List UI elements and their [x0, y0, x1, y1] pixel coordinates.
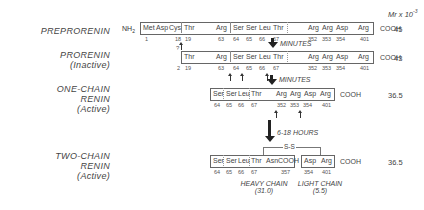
- residue: Leu: [259, 53, 271, 60]
- step-arrowhead-icon: [268, 42, 278, 48]
- position-number: 65: [246, 36, 252, 42]
- residue: Cys: [169, 24, 181, 31]
- position-number: 354: [336, 65, 345, 71]
- residue: Leu: [259, 24, 271, 31]
- position-number: 352: [277, 102, 286, 108]
- position-number: 401: [322, 102, 331, 108]
- residue: Arg: [322, 24, 333, 31]
- label-one-chain-renin: ONE-CHAIN RENIN (Active): [0, 84, 110, 114]
- divider: [181, 22, 182, 33]
- residue: Asp: [156, 24, 168, 31]
- position-number: 354: [303, 102, 312, 108]
- position-number: 1: [145, 36, 148, 42]
- label-one-chain-name: ONE-CHAIN: [0, 84, 110, 94]
- label-prorenin: PRORENIN (Inactive): [0, 50, 110, 70]
- label-two-chain-state: (Active): [0, 171, 110, 181]
- residue: Arg: [322, 53, 333, 60]
- light-chain-name: LIGHT CHAIN: [290, 180, 350, 187]
- residue: Arg: [308, 24, 319, 31]
- residue: Ser: [233, 24, 244, 31]
- label-two-chain-renin: TWO-CHAIN RENIN (Active): [0, 151, 110, 181]
- position-number: 353: [322, 65, 331, 71]
- nh2-text: NH: [122, 25, 132, 32]
- light-chain-mr: (5.5): [290, 187, 350, 194]
- residue: Arg: [358, 53, 369, 60]
- residue: Leu: [238, 90, 250, 97]
- residue: Ser: [233, 53, 244, 60]
- label-two-chain-name2: RENIN: [0, 161, 110, 171]
- divider: [230, 22, 231, 33]
- residue: Thr: [273, 24, 284, 31]
- nh2-sub: 2: [132, 28, 135, 34]
- step-arrowhead-icon: [265, 136, 275, 142]
- residue: Ser: [213, 157, 224, 164]
- cleavage-arrowhead-icon: [298, 110, 302, 113]
- residue: Thr: [273, 53, 284, 60]
- residue: Arg: [321, 157, 332, 164]
- residue: Arg: [216, 24, 227, 31]
- heavy-chain-mr: (31.0): [234, 187, 294, 194]
- position-number: 67: [251, 169, 257, 175]
- nh2-terminus: NH2: [122, 25, 135, 34]
- position-number: 66: [238, 169, 244, 175]
- cooh-terminus: COOH: [340, 91, 361, 98]
- position-number: 19: [185, 36, 191, 42]
- label-prorenin-state: (Inactive): [0, 60, 110, 70]
- step-arrow-icon: [268, 120, 271, 136]
- mr-value: 36.5: [388, 91, 403, 100]
- residue: Arg: [320, 90, 331, 97]
- position-number: 357: [281, 169, 290, 175]
- heavy-chain-label: HEAVY CHAIN (31.0): [234, 180, 294, 194]
- cooh-terminus: COOH: [340, 158, 361, 165]
- step-label: MINUTES: [280, 40, 312, 47]
- position-number: 353: [322, 36, 331, 42]
- position-number: 401: [360, 36, 369, 42]
- cleavage-arrowhead-icon: [228, 73, 232, 76]
- residue: Thr: [184, 24, 195, 31]
- step-arrowhead-icon: [267, 79, 277, 85]
- mr-header: Mr x 10-3: [388, 8, 417, 19]
- residue: Thr: [184, 53, 195, 60]
- residue: Leu: [238, 157, 250, 164]
- position-number: 64: [214, 102, 220, 108]
- position-number: 65: [226, 102, 232, 108]
- position-note: 2: [177, 65, 180, 71]
- label-one-chain-state: (Active): [0, 104, 110, 114]
- heavy-chain-name: HEAVY CHAIN: [234, 180, 294, 187]
- position-number: 64: [214, 169, 220, 175]
- position-number: 401: [360, 65, 369, 71]
- mr-value: 45: [394, 25, 402, 34]
- position-number: 64: [233, 36, 239, 42]
- mr-exponent: -3: [413, 8, 417, 14]
- label-two-chain-name: TWO-CHAIN: [0, 151, 110, 161]
- position-number: 65: [246, 65, 252, 71]
- residue: Arg: [290, 90, 301, 97]
- step-label: 6-18 HOURS: [277, 129, 318, 136]
- position-number: 63: [218, 65, 224, 71]
- position-number: 66: [259, 36, 265, 42]
- position-number: 401: [322, 169, 331, 175]
- residue: AsnCOOH: [266, 157, 299, 164]
- mr-value: 43: [394, 54, 402, 63]
- step-label: MINUTES: [279, 76, 311, 83]
- light-chain-label: LIGHT CHAIN (5.5): [290, 180, 350, 194]
- residue: Asp: [304, 90, 316, 97]
- residue: Ser: [213, 90, 224, 97]
- position-number: 354: [304, 169, 313, 175]
- residue: Ser: [246, 53, 257, 60]
- cleavage-arrowhead-icon: [179, 42, 183, 45]
- mr-value: 36.5: [388, 158, 403, 167]
- cleavage-arrowhead-icon: [240, 73, 244, 76]
- position-number: 66: [259, 65, 265, 71]
- divider: [287, 51, 288, 62]
- mr-header-text: Mr x 10: [388, 10, 413, 19]
- residue: Ser: [226, 90, 237, 97]
- residue: Asp: [336, 24, 348, 31]
- position-number: 63: [218, 36, 224, 42]
- position-number: 67: [251, 102, 257, 108]
- divider: [230, 51, 231, 62]
- label-one-chain-name2: RENIN: [0, 94, 110, 104]
- residue: Thr: [251, 90, 262, 97]
- cleavage-arrowhead-icon: [265, 73, 269, 76]
- position-number: 65: [226, 169, 232, 175]
